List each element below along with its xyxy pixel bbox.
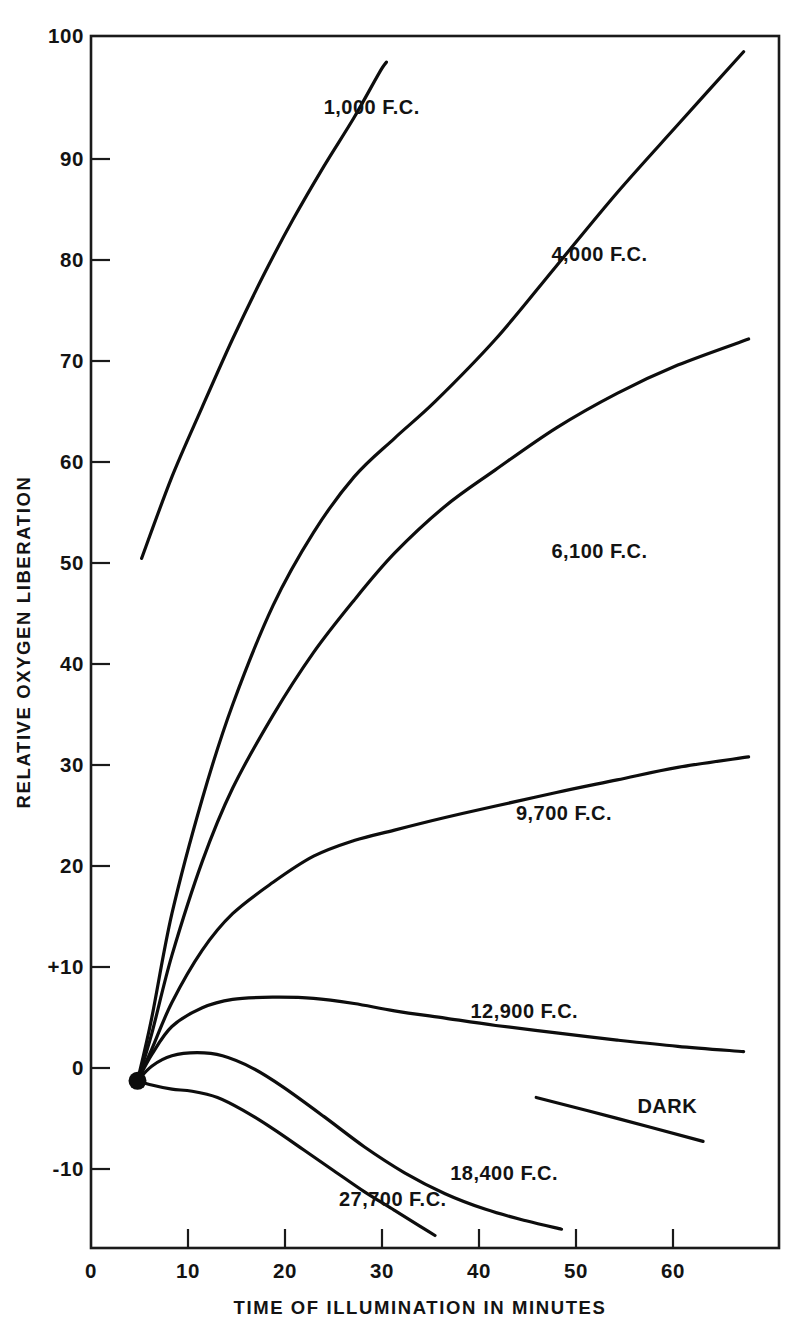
ytick-label-40: 40 (60, 652, 84, 675)
ytick-label-80: 80 (60, 248, 84, 271)
ytick-label-plus10: +10 (47, 955, 84, 978)
series-label-12900fc: 12,900 F.C. (470, 1000, 578, 1022)
y-axis-ticks (91, 159, 110, 1169)
x-axis-title: TIME OF ILLUMINATION IN MINUTES (234, 1297, 607, 1318)
series-curve-3 (138, 757, 749, 1081)
xtick-label-30: 30 (370, 1259, 394, 1282)
origin-point-marker (129, 1072, 147, 1090)
oxygen-liberation-line-chart: 100 90 80 70 60 50 40 30 20 +10 0 -10 0 … (0, 0, 804, 1324)
xtick-label-0: 0 (85, 1259, 97, 1282)
xtick-label-50: 50 (564, 1259, 588, 1282)
figure-container: 100 90 80 70 60 50 40 30 20 +10 0 -10 0 … (0, 0, 804, 1324)
series-curve-1 (138, 52, 744, 1081)
y-axis-tick-labels: 100 90 80 70 60 50 40 30 20 +10 0 -10 (47, 24, 84, 1180)
series-label-dark: DARK (637, 1095, 697, 1117)
plot-frame (91, 36, 779, 1248)
ytick-label-20: 20 (60, 854, 84, 877)
series-label-6100fc: 6,100 F.C. (551, 540, 647, 562)
data-curves-group (138, 52, 749, 1236)
x-axis-tick-labels: 0 10 20 30 40 50 60 (85, 1259, 685, 1282)
y-axis-title: RELATIVE OXYGEN LIBERATION (13, 476, 34, 809)
xtick-label-10: 10 (176, 1259, 200, 1282)
ytick-label-30: 30 (60, 753, 84, 776)
ytick-label-60: 60 (60, 450, 84, 473)
series-curve-6 (138, 1081, 436, 1236)
series-curve-4 (138, 997, 744, 1081)
xtick-label-20: 20 (273, 1259, 297, 1282)
ytick-label-100: 100 (48, 24, 84, 47)
series-label-27700fc: 27,700 F.C. (339, 1188, 447, 1210)
ytick-label-0: 0 (72, 1056, 84, 1079)
ytick-label-minus10: -10 (53, 1157, 84, 1180)
xtick-label-60: 60 (661, 1259, 685, 1282)
series-label-18400fc: 18,400 F.C. (450, 1162, 558, 1184)
ytick-label-50: 50 (60, 551, 84, 574)
series-label-9700fc: 9,700 F.C. (516, 802, 612, 824)
series-label-4000fc: 4,000 F.C. (551, 243, 647, 265)
ytick-label-70: 70 (60, 349, 84, 372)
series-label-1000fc: 1,000 F.C. (324, 96, 420, 118)
ytick-label-90: 90 (60, 147, 84, 170)
xtick-label-40: 40 (467, 1259, 491, 1282)
